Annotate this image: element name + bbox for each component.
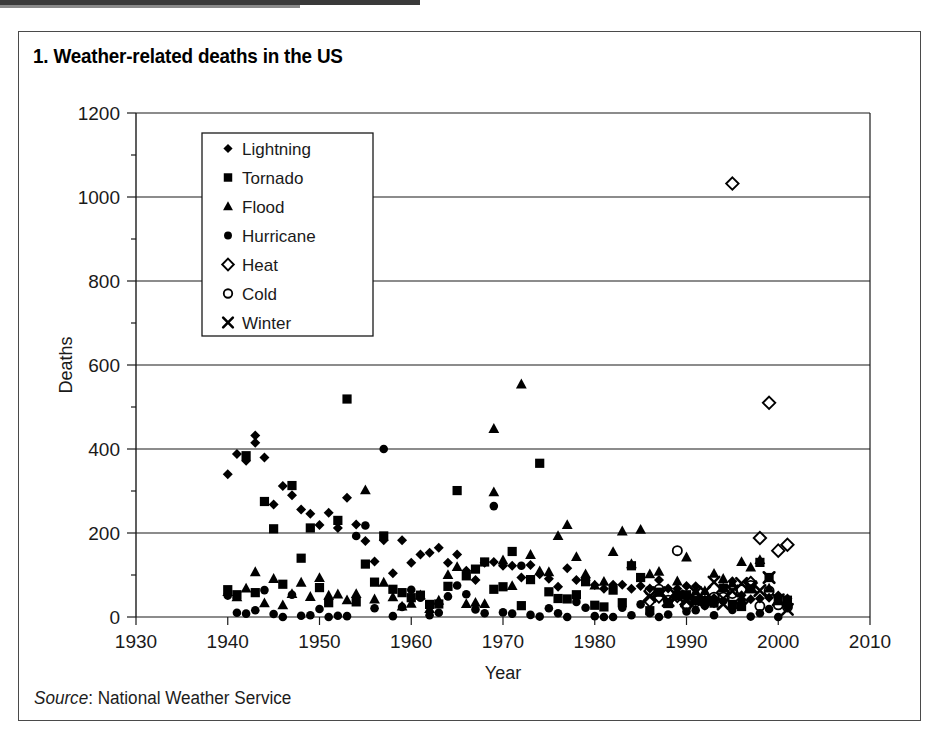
data-point bbox=[471, 605, 480, 614]
data-point bbox=[397, 535, 407, 545]
data-point bbox=[480, 609, 489, 618]
data-point bbox=[443, 582, 452, 591]
data-point bbox=[444, 592, 453, 601]
data-point bbox=[406, 558, 416, 568]
data-point bbox=[323, 590, 334, 600]
data-point bbox=[250, 438, 260, 448]
data-point bbox=[746, 612, 755, 621]
data-point bbox=[233, 609, 242, 618]
data-point bbox=[297, 611, 306, 620]
data-point bbox=[609, 613, 618, 622]
data-point bbox=[407, 585, 416, 594]
data-point bbox=[636, 573, 645, 582]
data-point bbox=[296, 504, 306, 514]
source-separator: : bbox=[88, 688, 98, 708]
data-point bbox=[580, 568, 591, 578]
data-point bbox=[562, 563, 572, 573]
data-point bbox=[361, 521, 370, 530]
data-point bbox=[563, 594, 572, 603]
data-point bbox=[296, 577, 307, 587]
data-point bbox=[250, 566, 261, 576]
chart-legend[interactable]: LightningTornadoFloodHurricaneHeatColdWi… bbox=[202, 133, 373, 336]
data-point bbox=[516, 573, 526, 583]
y-axis-title: Deaths bbox=[56, 336, 76, 393]
data-point bbox=[370, 578, 379, 587]
y-tick-label-600: 600 bbox=[88, 355, 120, 376]
series-flood bbox=[222, 379, 783, 614]
data-point bbox=[370, 604, 379, 613]
series-lightning bbox=[223, 431, 793, 605]
data-point bbox=[681, 552, 692, 562]
data-point bbox=[452, 549, 462, 559]
data-point bbox=[352, 532, 361, 541]
data-point bbox=[572, 598, 581, 607]
data-point bbox=[682, 581, 692, 591]
data-point bbox=[765, 605, 774, 614]
data-point bbox=[507, 561, 517, 571]
data-point bbox=[241, 583, 252, 593]
figure-page: 1. Weather-related deaths in the US 0200… bbox=[0, 0, 948, 740]
data-point bbox=[563, 613, 572, 622]
data-point bbox=[333, 516, 342, 525]
data-point bbox=[488, 487, 499, 497]
data-point bbox=[269, 499, 279, 509]
legend-marker-filled-square bbox=[224, 173, 232, 181]
data-point bbox=[334, 611, 343, 620]
data-point bbox=[618, 603, 627, 612]
data-point bbox=[545, 604, 554, 613]
data-point bbox=[654, 566, 665, 576]
data-point bbox=[425, 611, 434, 620]
data-point bbox=[498, 555, 509, 565]
data-point bbox=[498, 582, 507, 591]
data-point bbox=[636, 581, 646, 591]
x-tick-label-2010: 2010 bbox=[849, 631, 891, 652]
legend-label-winter: Winter bbox=[242, 314, 291, 333]
data-point bbox=[745, 562, 756, 572]
data-point bbox=[654, 575, 664, 585]
data-point bbox=[379, 445, 388, 454]
data-point bbox=[535, 459, 544, 468]
x-tick-label-1990: 1990 bbox=[665, 631, 707, 652]
data-point bbox=[251, 588, 260, 597]
data-point bbox=[314, 572, 325, 582]
legend-label-heat: Heat bbox=[242, 256, 278, 275]
data-point bbox=[306, 523, 315, 532]
data-point bbox=[315, 520, 325, 530]
data-point bbox=[343, 612, 352, 621]
legend-label-tornado: Tornado bbox=[242, 169, 303, 188]
series-tornado bbox=[223, 394, 792, 615]
data-point bbox=[571, 551, 582, 561]
data-point bbox=[259, 597, 270, 607]
data-point bbox=[526, 575, 535, 584]
data-point bbox=[342, 594, 353, 604]
data-point bbox=[288, 590, 297, 599]
data-point bbox=[315, 605, 324, 614]
data-point bbox=[516, 379, 527, 389]
data-point bbox=[306, 611, 315, 620]
legend-label-cold: Cold bbox=[242, 285, 277, 304]
data-point bbox=[581, 603, 590, 612]
data-point bbox=[315, 583, 324, 592]
data-point bbox=[324, 613, 333, 622]
x-tick-label-1970: 1970 bbox=[482, 631, 524, 652]
data-point bbox=[342, 493, 352, 503]
source-note: Source: National Weather Service bbox=[34, 688, 291, 709]
data-point bbox=[269, 610, 278, 619]
data-point bbox=[287, 490, 297, 500]
data-point bbox=[635, 524, 646, 534]
data-point bbox=[480, 557, 489, 566]
data-point bbox=[332, 589, 343, 599]
data-point bbox=[351, 588, 362, 598]
scatter-chart-svg: 0200400600800100012001930194019501960197… bbox=[0, 0, 948, 740]
data-point bbox=[507, 580, 518, 590]
data-point bbox=[644, 568, 655, 578]
data-point bbox=[453, 581, 462, 590]
data-point bbox=[223, 469, 233, 479]
legend-label-flood: Flood bbox=[242, 198, 285, 217]
data-point bbox=[434, 543, 444, 553]
data-point bbox=[479, 598, 490, 608]
data-point bbox=[517, 561, 526, 570]
x-tick-label-1940: 1940 bbox=[207, 631, 249, 652]
data-point bbox=[232, 449, 242, 459]
data-point bbox=[434, 609, 443, 618]
